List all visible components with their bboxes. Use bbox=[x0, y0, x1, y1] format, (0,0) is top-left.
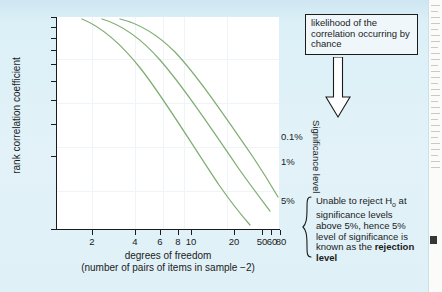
sliver-text-line bbox=[431, 47, 438, 48]
note-line5-bold: rejection bbox=[375, 241, 415, 252]
note-line4: level of significance is bbox=[316, 231, 408, 242]
sliver-text-line bbox=[431, 35, 440, 36]
note-line5-a: known as the bbox=[316, 241, 375, 252]
sliver-text-line bbox=[431, 41, 440, 42]
curve-label-0-1-percent: 0.1% bbox=[281, 131, 303, 142]
adjacent-page-sliver bbox=[428, 0, 442, 292]
x-tick-label: 2 bbox=[81, 237, 103, 247]
x-tick-label: 4 bbox=[124, 237, 146, 247]
x-axis-line bbox=[56, 229, 280, 230]
y-tick bbox=[51, 229, 56, 230]
x-tick-label: 10 bbox=[180, 237, 202, 247]
sliver-text-line bbox=[431, 107, 440, 108]
x-tick bbox=[271, 230, 272, 235]
x-tick bbox=[191, 230, 192, 235]
note-line1-b: at bbox=[396, 195, 407, 206]
sliver-text-line bbox=[431, 155, 438, 156]
sliver-text-line bbox=[431, 125, 440, 126]
note-line1-a: Unable to reject H bbox=[316, 195, 392, 206]
sliver-text-line bbox=[431, 11, 438, 12]
plot-area bbox=[57, 17, 279, 229]
sliver-text-line bbox=[431, 59, 440, 60]
x-tick-label: 20 bbox=[223, 237, 245, 247]
x-tick bbox=[262, 230, 263, 235]
sliver-text-line bbox=[431, 167, 440, 168]
x-axis-label: degrees of freedom bbox=[40, 250, 296, 261]
sliver-text-line bbox=[431, 131, 440, 132]
sliver-text-line bbox=[431, 53, 440, 54]
x-tick bbox=[280, 230, 281, 235]
note-line3: above 5%, hence 5% bbox=[316, 220, 406, 231]
sliver-text-line bbox=[431, 119, 438, 120]
y-tick bbox=[51, 64, 56, 65]
sliver-text-line bbox=[431, 143, 440, 144]
y-tick bbox=[51, 38, 56, 39]
sliver-text-line bbox=[431, 149, 440, 150]
y-tick bbox=[51, 50, 56, 51]
sliver-text-line bbox=[431, 101, 438, 102]
sliver-text-line bbox=[431, 71, 440, 72]
y-axis-line bbox=[56, 17, 57, 230]
down-arrow-icon bbox=[325, 57, 351, 119]
sliver-text-line bbox=[431, 113, 440, 114]
x-tick bbox=[178, 230, 179, 235]
sliver-text-line bbox=[431, 17, 440, 18]
sliver-text-line bbox=[431, 29, 438, 30]
rejection-level-note-text: Unable to reject Ho at significance leve… bbox=[316, 196, 414, 263]
figure-chart-significance-levels: 1.0 0.9 0.8 0.7 0.6 0.5 0.4 0.3 0.2 0.1 … bbox=[0, 0, 442, 292]
sliver-text-line bbox=[431, 161, 440, 162]
note-line6-bold: level bbox=[316, 252, 337, 263]
sliver-text-line bbox=[431, 89, 440, 90]
x-tick bbox=[160, 230, 161, 235]
curve-1-percent bbox=[102, 19, 270, 211]
sliver-ink-blob bbox=[430, 236, 437, 244]
note-line2: significance levels bbox=[316, 209, 393, 220]
significance-curves bbox=[57, 17, 279, 229]
sliver-text-line bbox=[431, 83, 438, 84]
x-tick bbox=[92, 230, 93, 235]
x-tick-label: 80 bbox=[270, 237, 292, 247]
y-tick bbox=[51, 27, 56, 28]
y-tick bbox=[51, 156, 56, 157]
y-tick bbox=[51, 81, 56, 82]
curve-5-percent bbox=[82, 19, 250, 225]
curve-label-1-percent: 1% bbox=[281, 156, 295, 167]
y-tick bbox=[51, 124, 56, 125]
sliver-text-line bbox=[431, 5, 440, 6]
curve-label-5-percent: 5% bbox=[281, 195, 295, 206]
sliver-text-line bbox=[431, 137, 438, 138]
curly-brace-icon bbox=[302, 196, 313, 258]
sliver-text-line bbox=[431, 77, 440, 78]
x-tick bbox=[234, 230, 235, 235]
rejection-level-note: Unable to reject Ho at significance leve… bbox=[302, 196, 442, 263]
sliver-text-line bbox=[431, 95, 440, 96]
y-tick bbox=[51, 17, 56, 18]
y-axis-label: rank correlation coefficient bbox=[11, 36, 22, 196]
callout-box: likelihood of the correlation occurring … bbox=[305, 14, 418, 55]
x-tick bbox=[135, 230, 136, 235]
y-tick bbox=[51, 100, 56, 101]
curve-0-1-percent bbox=[120, 19, 278, 197]
sliver-text-line bbox=[431, 23, 440, 24]
sliver-text-line bbox=[431, 65, 438, 66]
x-axis-sublabel: (number of pairs of items in sample −2) bbox=[14, 262, 322, 273]
